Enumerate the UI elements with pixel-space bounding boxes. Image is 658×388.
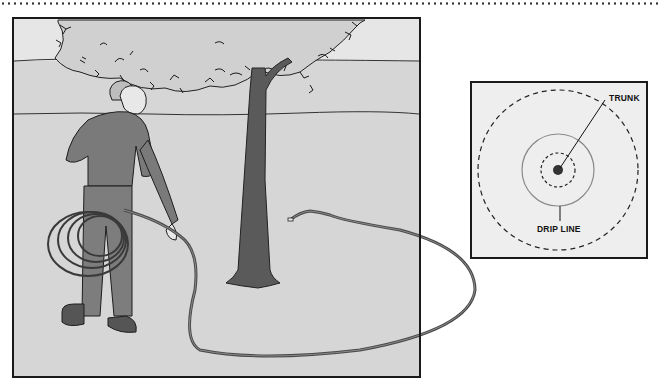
drip-line-inset: TRUNK DRIP LINE <box>471 82 647 258</box>
trunk-label: TRUNK <box>609 93 640 103</box>
illustration-canvas: TRUNK DRIP LINE <box>0 0 658 388</box>
main-scene <box>13 18 475 377</box>
drip-line-label: DRIP LINE <box>537 224 581 234</box>
hose-nozzle-end <box>288 218 293 221</box>
